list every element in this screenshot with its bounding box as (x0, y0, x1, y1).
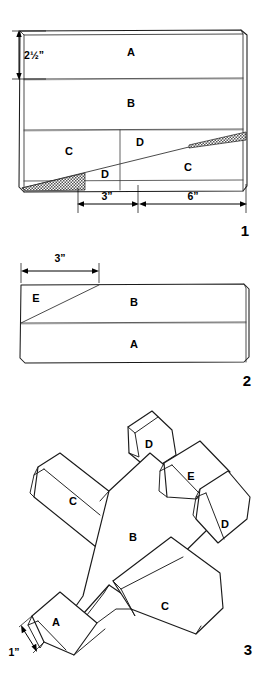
figure-2-cut-layout: 3” E B A 2 (0, 245, 267, 395)
taper-dimension: 3” (21, 252, 99, 283)
figure-number-2: 2 (243, 372, 251, 389)
part-label-a: A (127, 46, 135, 58)
nose-thickness-label: 1” (8, 646, 19, 658)
part-label-a-3: A (52, 616, 60, 628)
part-label-b-3: B (129, 531, 137, 543)
part-label-e: E (32, 292, 39, 304)
figure-number-3: 3 (244, 641, 252, 658)
figure-1-cut-layout: 2½” 3” 6” A B C D D C (0, 0, 267, 245)
diagram-page: 2½” 3” 6” A B C D D C (0, 0, 267, 684)
height-dimension-label: 2½” (24, 49, 44, 61)
right-width-dimension-label: 6” (187, 190, 198, 202)
part-label-d-lower: D (101, 168, 109, 180)
figure-number-1: 1 (241, 222, 249, 239)
part-label-c-right-3: C (161, 600, 169, 612)
part-label-c-right: C (184, 161, 192, 173)
part-label-b-2: B (130, 296, 138, 308)
fuselage-keel-edge (97, 609, 131, 623)
part-label-b: B (127, 97, 135, 109)
taper-dimension-label: 3” (54, 252, 65, 264)
part-label-e-3: E (187, 470, 194, 482)
part-label-d-upper: D (136, 136, 144, 148)
part-label-c-left: C (65, 145, 73, 157)
part-label-d-top: D (145, 438, 153, 450)
left-width-dimension-label: 3” (101, 190, 112, 202)
part-label-d-right: D (221, 518, 229, 530)
figure-3-assembled-glider: 1” D E C B D C A 3 (0, 395, 267, 684)
part-label-c-left-3: C (69, 495, 77, 507)
part-label-a-2: A (130, 338, 138, 350)
